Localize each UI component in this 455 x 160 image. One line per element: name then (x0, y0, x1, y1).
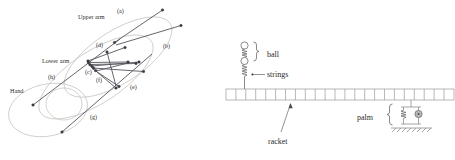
ground-hatch-stroke (417, 128, 421, 132)
label-hand: Hand (10, 87, 24, 94)
ball-spring-upper (242, 49, 247, 57)
ground-hatch-stroke (397, 128, 401, 132)
arm-joint-node (142, 70, 145, 73)
arm-joint-node (180, 24, 183, 27)
ground-hatching (392, 128, 431, 132)
strings-spring (242, 65, 247, 77)
region-outline-hand-inner (46, 88, 82, 120)
arm-joint-nodes (32, 9, 183, 134)
region-outline-upper-arm (52, 1, 184, 112)
arm-joint-node (106, 51, 109, 54)
arm-joint-node (61, 131, 64, 134)
ground-hatch-stroke (427, 128, 431, 132)
tag-d: (d) (96, 42, 103, 49)
tag-c: (c) (85, 69, 92, 76)
palm-spring (401, 110, 406, 118)
label-upper-arm: Upper arm (78, 13, 105, 20)
ground-hatch-stroke (422, 128, 426, 132)
ball-mass-upper (241, 42, 248, 49)
ball-brace (254, 42, 260, 61)
arm-segment (115, 10, 163, 43)
ball-assembly (241, 42, 248, 89)
tag-a: (a) (117, 8, 124, 15)
arm-joint-node (127, 61, 130, 64)
tag-h: (h) (48, 74, 55, 81)
tag-g: (g) (90, 114, 97, 121)
label-strings: strings (267, 70, 288, 79)
strings-leader-dot (251, 73, 253, 75)
racket-leader (281, 103, 293, 132)
ground-hatch-stroke (402, 128, 406, 132)
label-ball: ball (267, 50, 280, 59)
region-outlines (3, 1, 184, 143)
arm-joint-node (135, 62, 138, 65)
tag-f: (f) (96, 77, 102, 84)
arm-joint-node (138, 61, 141, 64)
tag-b: (b) (163, 43, 170, 50)
palm-brace (387, 104, 393, 125)
arm-joint-node (32, 104, 35, 107)
arm-segment-long (33, 39, 120, 105)
racket-leader-arrowhead (289, 103, 293, 108)
right-panel-racket-model: ball strings racket (226, 42, 454, 146)
figure-canvas: Upper arm Lower arm Hand (a) (b) (c) (d)… (0, 0, 455, 160)
arm-joint-node (94, 69, 97, 72)
ball-mass-lower (241, 57, 248, 64)
ground-hatch-stroke (412, 128, 416, 132)
palm-assembly (391, 100, 432, 132)
arm-joint-node (115, 87, 118, 90)
arm-segment-long (62, 54, 152, 132)
tag-e: (e) (130, 84, 137, 91)
ground-hatch-stroke (407, 128, 411, 132)
arm-joint-node (92, 67, 95, 70)
arm-segments (33, 10, 181, 132)
arm-joint-node (124, 46, 127, 49)
label-racket: racket (268, 137, 288, 146)
racket-bar (226, 89, 454, 100)
label-lower-arm: Lower arm (42, 57, 70, 64)
racket-cell-dividers (236, 89, 444, 100)
figure-root: Upper arm Lower arm Hand (a) (b) (c) (d)… (0, 0, 455, 160)
palm-damper-center-dot (418, 113, 420, 115)
label-palm: palm (357, 113, 374, 122)
arm-joint-node (161, 9, 164, 12)
ground-hatch-stroke (392, 128, 396, 132)
arm-joint-node (113, 41, 116, 44)
arm-segment (89, 62, 129, 63)
left-panel-arm-diagram: Upper arm Lower arm Hand (a) (b) (c) (d)… (3, 1, 184, 143)
strings-leader (251, 73, 265, 75)
arm-joint-node (118, 85, 121, 88)
